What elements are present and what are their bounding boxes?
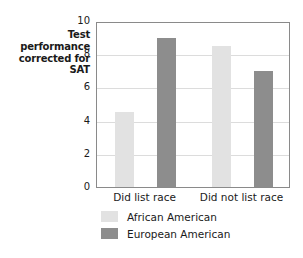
x-axis-tick-label: Did not list race xyxy=(182,191,302,203)
chart-legend: African AmericanEuropean American xyxy=(101,209,230,243)
legend-swatch xyxy=(101,211,118,222)
y-axis-tick-label: 10 xyxy=(64,15,90,26)
y-axis-title-line: Test xyxy=(2,29,90,41)
bar xyxy=(157,38,176,187)
bar xyxy=(115,112,134,187)
bar xyxy=(212,46,231,187)
y-axis-tick-label: 4 xyxy=(64,115,90,126)
legend-item: European American xyxy=(101,226,230,241)
legend-swatch xyxy=(101,228,118,239)
bar xyxy=(254,71,273,187)
gridline xyxy=(97,55,289,56)
legend-item: African American xyxy=(101,209,230,224)
y-axis-title-line: SAT xyxy=(2,64,90,76)
y-axis-tick-label: 2 xyxy=(64,148,90,159)
legend-label: European American xyxy=(127,228,230,240)
legend-label: African American xyxy=(127,211,217,223)
bar-chart-figure: Testperformancecorrected forSAT 0246810 … xyxy=(0,0,303,258)
y-axis-tick-label: 8 xyxy=(64,48,90,59)
plot-area xyxy=(96,22,290,188)
y-axis-tick-label: 6 xyxy=(64,81,90,92)
